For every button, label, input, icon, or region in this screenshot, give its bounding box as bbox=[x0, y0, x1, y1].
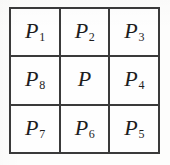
cell-base-letter: P bbox=[78, 66, 92, 91]
cell-base-letter: P bbox=[124, 18, 138, 43]
cell-subscript: 5 bbox=[138, 127, 144, 141]
cell-label-p3: P3 bbox=[124, 20, 144, 42]
cell-subscript: 1 bbox=[39, 30, 45, 44]
cell-label-p1: P1 bbox=[25, 20, 45, 42]
grid-cell-r2c1: P8 bbox=[11, 57, 61, 105]
cell-base-letter: P bbox=[75, 18, 89, 43]
grid-cell-r2c3: P4 bbox=[110, 57, 160, 105]
grid-cell-r3c2: P6 bbox=[61, 106, 111, 154]
cell-label-p4: P4 bbox=[124, 68, 144, 90]
cell-subscript: 6 bbox=[89, 127, 95, 141]
cell-base-letter: P bbox=[25, 115, 39, 140]
cell-subscript: 8 bbox=[39, 78, 45, 92]
cell-label-p-center: P bbox=[78, 68, 92, 90]
grid-cell-r3c1: P7 bbox=[11, 106, 61, 154]
cell-base-letter: P bbox=[124, 115, 138, 140]
cell-subscript: 7 bbox=[39, 127, 45, 141]
cell-label-p5: P5 bbox=[124, 117, 144, 139]
cell-subscript: 4 bbox=[138, 78, 144, 92]
cell-label-p6: P6 bbox=[75, 117, 95, 139]
cell-label-p2: P2 bbox=[75, 20, 95, 42]
cell-subscript: 2 bbox=[89, 30, 95, 44]
cell-label-p8: P8 bbox=[25, 68, 45, 90]
cell-base-letter: P bbox=[25, 18, 39, 43]
cell-base-letter: P bbox=[25, 66, 39, 91]
grid-cell-r1c3: P3 bbox=[110, 9, 160, 57]
grid-cell-r1c1: P1 bbox=[11, 9, 61, 57]
cell-subscript: 3 bbox=[138, 30, 144, 44]
grid-cell-r3c3: P5 bbox=[110, 106, 160, 154]
grid-cell-center: P bbox=[61, 57, 111, 105]
cell-base-letter: P bbox=[75, 115, 89, 140]
cell-base-letter: P bbox=[124, 66, 138, 91]
pixel-neighborhood-grid: P1 P2 P3 P8 P P4 bbox=[9, 7, 160, 154]
grid-cell-r1c2: P2 bbox=[61, 9, 111, 57]
cell-label-p7: P7 bbox=[25, 117, 45, 139]
figure-container: P1 P2 P3 P8 P P4 bbox=[0, 0, 170, 165]
